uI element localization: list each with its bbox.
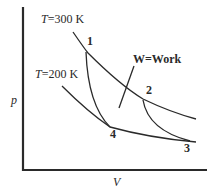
isotherm-300k-label: T=300 K [41,13,84,25]
work-leader-line [119,66,134,108]
isotherm-300k-value: =300 K [48,12,84,26]
work-annotation-label: W=Work [133,53,181,65]
isotherm-200k-curve [62,86,196,142]
diagram-canvas [0,0,214,194]
isotherm-200k-label: T=200 K [35,68,78,80]
point-1-label: 1 [87,35,93,47]
isotherm-300k-symbol: T [41,12,48,26]
axes [23,7,207,170]
y-axis-label: p [11,94,17,106]
x-axis-label: V [113,176,120,188]
pv-diagram: T=300 K T=200 K 1 2 3 4 W=Work p V [0,0,214,194]
isotherm-200k-symbol: T [35,67,42,81]
point-3-label: 3 [184,142,190,154]
point-2-label: 2 [146,84,152,96]
adiabat-2-3-curve [143,100,190,141]
isotherm-200k-value: =200 K [42,67,78,81]
point-4-label: 4 [110,128,116,140]
